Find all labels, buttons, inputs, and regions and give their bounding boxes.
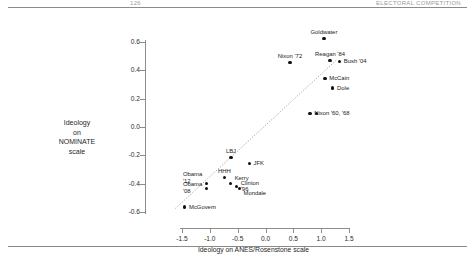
page-rule-bottom [8, 246, 467, 247]
data-point [205, 187, 208, 190]
x-tick-label: 0.5 [278, 236, 308, 243]
data-point-label: Nixon '72 [278, 53, 302, 60]
x-tick-label: -1.5 [167, 236, 197, 243]
data-point-label: Obama '08 [183, 182, 202, 195]
data-point [238, 187, 241, 190]
page-rule-top [8, 7, 467, 8]
y-tick-label: 0.6 [116, 39, 140, 46]
data-point [322, 37, 325, 40]
running-head-left: 126 [130, 0, 141, 7]
y-tick-mark [140, 184, 145, 185]
y-tick-label: 0.0 [116, 124, 140, 131]
data-point-label: Dole [337, 85, 349, 92]
y-tick-mark [140, 155, 145, 156]
data-point [308, 112, 311, 115]
x-tick-label: 0.0 [251, 236, 281, 243]
x-tick-mark [266, 228, 267, 233]
y-axis-title-line: scale [44, 147, 110, 157]
data-point-label: HHH [218, 167, 231, 174]
data-point-label: Goldwater [311, 28, 338, 35]
data-point [248, 162, 251, 165]
x-axis-title: Ideology on ANES/Rosenstone scale [146, 246, 361, 253]
x-tick-mark [210, 228, 211, 233]
x-tick-mark [321, 228, 322, 233]
data-point [229, 182, 232, 185]
x-tick-mark [293, 228, 294, 233]
x-tick-mark [349, 228, 350, 233]
y-axis-title: IdeologyonNOMINATEscale [44, 118, 110, 156]
x-tick-label: 1.0 [306, 236, 336, 243]
data-point-label: Nixon '60, '68 [314, 110, 349, 117]
x-tick-label: -0.5 [223, 236, 253, 243]
data-point [288, 61, 291, 64]
y-tick-mark [140, 99, 145, 100]
x-tick-label: -1.0 [195, 236, 225, 243]
data-point [328, 59, 331, 62]
data-point [323, 77, 326, 80]
x-tick-mark [182, 228, 183, 233]
data-point-label: LBJ [226, 147, 236, 154]
y-tick-label: -0.4 [116, 180, 140, 187]
y-tick-mark [140, 70, 145, 71]
y-tick-label: 0.4 [116, 67, 140, 74]
y-axis-title-line: Ideology [44, 118, 110, 128]
data-point [223, 176, 226, 179]
figure-scatter-ideology: 0.60.40.20.0-0.2-0.4-0.6 -1.5-1.0-0.50.0… [0, 10, 475, 246]
y-axis-title-line: NOMINATE [44, 137, 110, 147]
y-tick-mark [140, 212, 145, 213]
x-tick-label: 1.5 [334, 236, 364, 243]
data-point [315, 112, 318, 115]
data-point-label: Mondale [244, 190, 267, 197]
x-tick-mark [238, 228, 239, 233]
data-point-label: McGovern [189, 204, 216, 211]
y-tick-mark [140, 127, 145, 128]
y-axis-title-line: on [44, 128, 110, 138]
y-tick-label: -0.2 [116, 152, 140, 159]
data-point-label: McCain [329, 75, 349, 82]
y-tick-label: -0.6 [116, 209, 140, 216]
data-point [229, 156, 232, 159]
y-tick-label: 0.2 [116, 95, 140, 102]
y-tick-mark [140, 42, 145, 43]
data-point-label: Reagan '84 [315, 50, 345, 57]
data-point [338, 60, 341, 63]
data-point-label: Bush '04 [344, 58, 367, 65]
running-head-right: ELECTORAL COMPETITION [376, 0, 461, 7]
data-point-label: JFK [254, 160, 264, 167]
